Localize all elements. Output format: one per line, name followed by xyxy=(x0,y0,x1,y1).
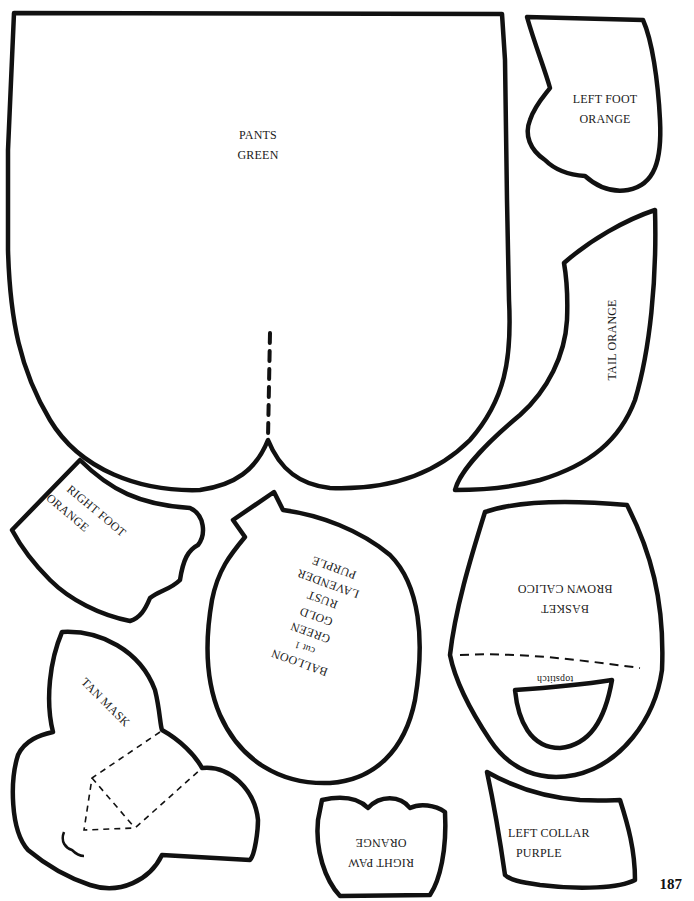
left-foot-name: LEFT FOOT xyxy=(560,90,650,110)
basket-topstitch-note: topstitch xyxy=(525,670,585,687)
tail-name: TAIL ORANGE xyxy=(603,290,623,390)
right-paw-label: RIGHT PAW ORANGE xyxy=(336,832,426,872)
tail-label: TAIL ORANGE xyxy=(603,290,623,390)
left-collar-color: PURPLE xyxy=(516,844,618,864)
pants-label: PANTS GREEN xyxy=(222,126,294,166)
pattern-page: PANTS GREEN LEFT FOOT ORANGE TAIL ORANGE… xyxy=(0,0,694,901)
left-foot-label: LEFT FOOT ORANGE xyxy=(560,90,650,130)
right-paw-color: ORANGE xyxy=(336,832,426,852)
right-paw-name: RIGHT PAW xyxy=(336,852,426,872)
basket-color: BROWN CALICO xyxy=(505,578,625,598)
basket-label: BASKET BROWN CALICO xyxy=(505,578,625,618)
left-collar-label: LEFT COLLAR PURPLE xyxy=(508,824,618,864)
basket-name: BASKET xyxy=(505,598,625,618)
pants-piece-outline xyxy=(8,13,510,490)
pants-name: PANTS xyxy=(222,126,294,146)
page-number: 187 xyxy=(660,876,683,893)
pattern-pieces-drawing xyxy=(0,0,694,901)
left-collar-name: LEFT COLLAR xyxy=(508,824,618,844)
left-foot-color: ORANGE xyxy=(560,110,650,130)
pants-color: GREEN xyxy=(222,146,294,166)
